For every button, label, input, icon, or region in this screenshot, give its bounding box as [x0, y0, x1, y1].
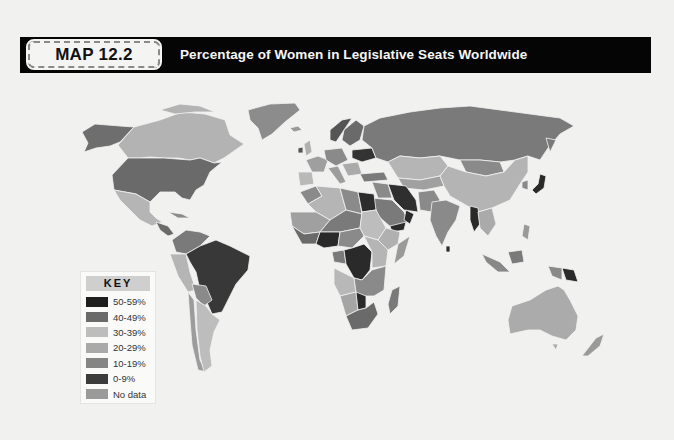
- region-russia: [362, 106, 574, 162]
- region-ireland: [298, 147, 303, 153]
- region-australia: [508, 286, 578, 340]
- region-indonesia: [482, 254, 510, 272]
- region-indochina: [478, 208, 496, 236]
- region-philippines: [522, 224, 530, 240]
- region-canada-islands: [160, 104, 215, 114]
- legend-label: 50-59%: [113, 296, 146, 307]
- region-france: [306, 156, 328, 172]
- legend-item: 50-59%: [86, 294, 150, 309]
- legend-label: 30-39%: [113, 327, 146, 338]
- region-canada: [118, 112, 244, 163]
- region-new-zealand: [582, 334, 604, 356]
- legend-item: No data: [86, 386, 150, 401]
- legend-title: KEY: [86, 276, 150, 291]
- legend-swatch: [86, 358, 108, 368]
- region-iceland: [290, 126, 302, 132]
- legend-item: 20-29%: [86, 340, 150, 355]
- legend-label: 0-9%: [113, 373, 135, 384]
- region-india: [430, 200, 460, 246]
- legend-item: 40-49%: [86, 309, 150, 324]
- legend-swatch: [86, 343, 108, 353]
- legend-item: 0-9%: [86, 371, 150, 386]
- legend-label: 40-49%: [113, 312, 146, 323]
- region-turkey: [360, 172, 388, 182]
- legend-label: No data: [113, 389, 146, 400]
- region-madagascar: [388, 286, 400, 314]
- region-brazil: [186, 240, 250, 314]
- region-japan: [532, 174, 546, 194]
- region-uk: [304, 140, 312, 156]
- region-italy: [328, 166, 346, 184]
- legend-item: 30-39%: [86, 325, 150, 340]
- legend-swatch: [86, 312, 108, 322]
- legend-swatch: [86, 389, 108, 399]
- region-tasmania: [552, 344, 558, 350]
- map-title: Percentage of Women in Legislative Seats…: [180, 37, 527, 73]
- map-legend: KEY 50-59% 40-49% 30-39% 20-29% 10-19% 0…: [80, 271, 156, 404]
- title-band: MAP 12.2 Percentage of Women in Legislat…: [20, 37, 651, 73]
- legend-label: 10-19%: [113, 358, 146, 369]
- legend-item: 10-19%: [86, 356, 150, 371]
- region-spain: [298, 172, 314, 186]
- map-number-badge: MAP 12.2: [28, 41, 160, 68]
- legend-swatch: [86, 374, 108, 384]
- region-papua-new-guinea: [562, 268, 578, 282]
- map-number: MAP 12.2: [55, 45, 133, 65]
- legend-swatch: [86, 327, 108, 337]
- region-caribbean: [168, 212, 190, 218]
- legend-label: 20-29%: [113, 342, 146, 353]
- legend-swatch: [86, 297, 108, 307]
- region-ukraine: [352, 148, 376, 162]
- region-new-guinea-west: [548, 266, 562, 280]
- region-balkans: [342, 162, 362, 176]
- region-korea: [522, 180, 528, 190]
- region-central-america: [156, 222, 174, 236]
- region-borneo: [508, 250, 524, 264]
- region-greenland: [248, 103, 300, 140]
- region-sri-lanka: [446, 246, 450, 252]
- region-nigeria: [316, 232, 340, 248]
